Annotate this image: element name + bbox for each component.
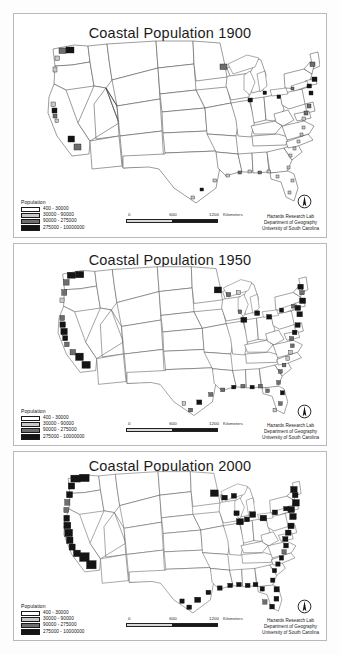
legend-row: 275000 - 10000000	[21, 434, 113, 440]
map-credits: Hazards Research Lab Department of Geogr…	[262, 423, 319, 441]
map-panel-1950: Coastal Population 1950	[13, 243, 327, 446]
legend-label-class3: 90000 - 275000	[43, 428, 77, 433]
credits-line-1: Hazards Research Lab	[262, 214, 319, 220]
legend-title: Population	[21, 200, 113, 205]
scalebar-unit: Kilometers	[223, 421, 243, 426]
map-legend: Population 400 - 30000 30000 - 90000 900…	[21, 604, 113, 635]
legend-title: Population	[21, 409, 113, 414]
scalebar-segment	[127, 220, 172, 222]
legend-label-class3: 90000 - 275000	[43, 219, 77, 224]
legend-label-class2: 30000 - 90000	[43, 422, 74, 427]
legend-title: Population	[21, 604, 113, 609]
map-scalebar: 0 600 1200 Kilometers	[126, 616, 238, 629]
scalebar-tick-2: 1200	[209, 212, 219, 217]
credits-line-3: University of South Carolina	[262, 630, 319, 636]
figure-page: Coastal Population 1900	[0, 0, 340, 654]
legend-label-class3: 90000 - 275000	[43, 623, 77, 628]
legend-swatch-class4	[21, 434, 40, 439]
legend-label-class1: 400 - 30000	[43, 416, 69, 421]
scalebar-unit: Kilometers	[223, 212, 243, 217]
legend-swatch-class2	[21, 422, 40, 427]
map-credits: Hazards Research Lab Department of Geogr…	[262, 214, 319, 232]
legend-swatch-class3	[21, 219, 40, 224]
scalebar-ticks: 0 600 1200 Kilometers	[126, 421, 238, 427]
legend-label-class1: 400 - 30000	[43, 611, 69, 616]
legend-label-class4: 275000 - 10000000	[43, 630, 85, 635]
credits-line-1: Hazards Research Lab	[262, 423, 319, 429]
legend-row: 275000 - 10000000	[21, 225, 113, 231]
legend-swatch-class2	[21, 213, 40, 218]
scalebar-bar	[126, 428, 218, 432]
scalebar-tick-0: 0	[128, 212, 130, 217]
scalebar-tick-0: 0	[128, 421, 130, 426]
credits-line-1: Hazards Research Lab	[262, 618, 319, 624]
legend-swatch-class3	[21, 428, 40, 433]
scalebar-tick-2: 1200	[209, 616, 219, 621]
us-map-1950	[24, 264, 320, 422]
legend-label-class4: 275000 - 10000000	[43, 435, 85, 440]
scalebar-bar	[126, 623, 218, 627]
legend-label-class4: 275000 - 10000000	[43, 226, 85, 231]
scalebar-tick-2: 1200	[209, 421, 219, 426]
legend-swatch-class4	[21, 225, 40, 230]
north-arrow-icon	[297, 404, 312, 419]
map-panel-1900: Coastal Population 1900	[13, 13, 327, 238]
scalebar-bar	[126, 219, 218, 223]
scalebar-tick-1: 600	[169, 616, 176, 621]
credits-line-3: University of South Carolina	[262, 435, 319, 441]
north-arrow-icon	[297, 194, 312, 209]
scalebar-tick-1: 600	[169, 212, 176, 217]
scalebar-unit: Kilometers	[223, 616, 243, 621]
scalebar-segment	[172, 220, 217, 222]
scalebar-tick-1: 600	[169, 421, 176, 426]
legend-swatch-class2	[21, 617, 40, 622]
map-credits: Hazards Research Lab Department of Geogr…	[262, 618, 319, 636]
legend-swatch-class4	[21, 629, 40, 634]
legend-label-class2: 30000 - 90000	[43, 617, 74, 622]
scalebar-segment	[172, 624, 217, 626]
legend-swatch-class1	[21, 611, 40, 616]
us-map-1900	[24, 38, 320, 210]
legend-swatch-class1	[21, 207, 40, 212]
legend-label-class2: 30000 - 90000	[43, 213, 74, 218]
map-scalebar: 0 600 1200 Kilometers	[126, 421, 238, 434]
scalebar-segment	[172, 429, 217, 431]
scalebar-segment	[127, 429, 172, 431]
credits-line-3: University of South Carolina	[262, 226, 319, 232]
scalebar-ticks: 0 600 1200 Kilometers	[126, 616, 238, 622]
map-legend: Population 400 - 30000 30000 - 90000 900…	[21, 409, 113, 440]
legend-swatch-class3	[21, 623, 40, 628]
legend-label-class1: 400 - 30000	[43, 207, 69, 212]
map-panel-2000: Coastal Population 2000	[13, 451, 327, 641]
legend-row: 275000 - 10000000	[21, 629, 113, 635]
north-arrow-icon	[297, 599, 312, 614]
scalebar-tick-0: 0	[128, 616, 130, 621]
scalebar-segment	[127, 624, 172, 626]
map-scalebar: 0 600 1200 Kilometers	[126, 212, 238, 225]
map-legend: Population 400 - 30000 30000 - 90000 900…	[21, 200, 113, 231]
us-map-2000	[24, 469, 320, 619]
scalebar-ticks: 0 600 1200 Kilometers	[126, 212, 238, 218]
legend-swatch-class1	[21, 416, 40, 421]
